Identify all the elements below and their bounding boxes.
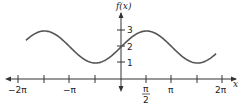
y-tick-label-1: 1 (127, 58, 133, 68)
x-axis-label: x (233, 79, 238, 89)
y-axis-down-arrow-icon (119, 86, 124, 92)
y-axis-up-arrow-icon (119, 12, 124, 18)
svg-text:π: π (143, 84, 149, 94)
x-tick-label-2pi: 2π (215, 85, 227, 95)
x-tick-label-neg-pi: −π (63, 85, 77, 95)
svg-text:2: 2 (143, 95, 149, 105)
x-tick-label-pi: π (168, 85, 174, 95)
y-tick-label-2: 2 (127, 42, 133, 52)
x-tick-label-neg-2pi: −2π (8, 85, 27, 95)
x-tick-label-pi-half: π 2 (142, 84, 150, 105)
x-axis-left-arrow-icon (5, 77, 11, 82)
function-graph: f(x) x 3 2 1 −2π −π π 2π π 2 (0, 0, 242, 107)
y-axis-label: f(x) (115, 1, 132, 11)
y-tick-label-3: 3 (127, 25, 133, 35)
